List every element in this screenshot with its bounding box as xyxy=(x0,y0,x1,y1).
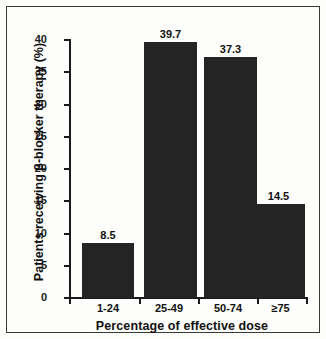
y-tick-5 xyxy=(64,265,71,267)
bar-value-ge-75: 14.5 xyxy=(252,190,305,202)
y-tick-10 xyxy=(64,233,71,235)
bar-1-24[interactable] xyxy=(82,243,134,298)
y-tick-20 xyxy=(64,168,71,170)
bar-ge-75[interactable] xyxy=(252,204,305,298)
bar-50-74[interactable] xyxy=(204,57,257,298)
x-category-label-ge-75: ≥75 xyxy=(252,302,309,314)
y-tick-40 xyxy=(64,39,71,41)
y-tick-35 xyxy=(64,71,71,73)
y-tick-15 xyxy=(64,200,71,202)
x-axis-title: Percentage of effective dose xyxy=(47,319,317,333)
bar-value-1-24: 8.5 xyxy=(82,229,134,241)
y-axis-title: Patients receiving β-blocker therapy (%) xyxy=(32,22,46,302)
bar-value-25-49: 39.7 xyxy=(144,28,197,40)
x-tick-0 xyxy=(69,297,71,304)
y-tick-25 xyxy=(64,136,71,138)
bar-25-49[interactable] xyxy=(144,42,197,298)
chart-screenshot: 40 35 30 25 20 15 10 5 0 8.5 39.7 37.3 1… xyxy=(0,0,326,339)
x-category-label-25-49: 25-49 xyxy=(139,302,199,314)
bar-value-50-74: 37.3 xyxy=(204,43,257,55)
figure-frame: 40 35 30 25 20 15 10 5 0 8.5 39.7 37.3 1… xyxy=(6,6,320,333)
x-category-label-50-74: 50-74 xyxy=(198,302,258,314)
x-category-label-1-24: 1-24 xyxy=(78,302,138,314)
y-tick-30 xyxy=(64,104,71,106)
